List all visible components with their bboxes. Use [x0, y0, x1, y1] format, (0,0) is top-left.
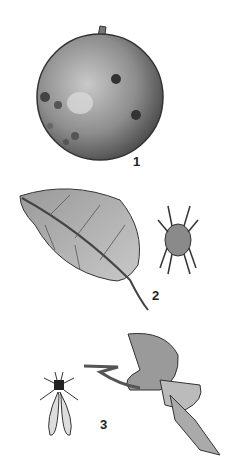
figure-label-3: 3	[100, 417, 107, 432]
insect-figure	[40, 372, 78, 435]
apple-figure	[37, 26, 163, 160]
figure-label-1: 1	[133, 154, 140, 169]
mite-figure	[158, 206, 198, 274]
leaf-figure	[20, 189, 148, 310]
figure-label-2: 2	[152, 288, 159, 303]
illustration-plate	[0, 0, 234, 462]
curled-leaf-figure	[84, 333, 220, 455]
